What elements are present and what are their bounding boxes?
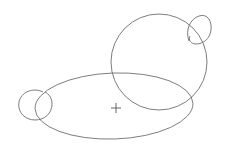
center-cross-marker <box>111 103 121 113</box>
drawing-svg <box>0 0 226 150</box>
body-ellipse <box>34 70 194 141</box>
head-circle <box>111 14 207 110</box>
ear-teardrop-path <box>188 15 212 44</box>
drawing-canvas <box>0 0 226 150</box>
